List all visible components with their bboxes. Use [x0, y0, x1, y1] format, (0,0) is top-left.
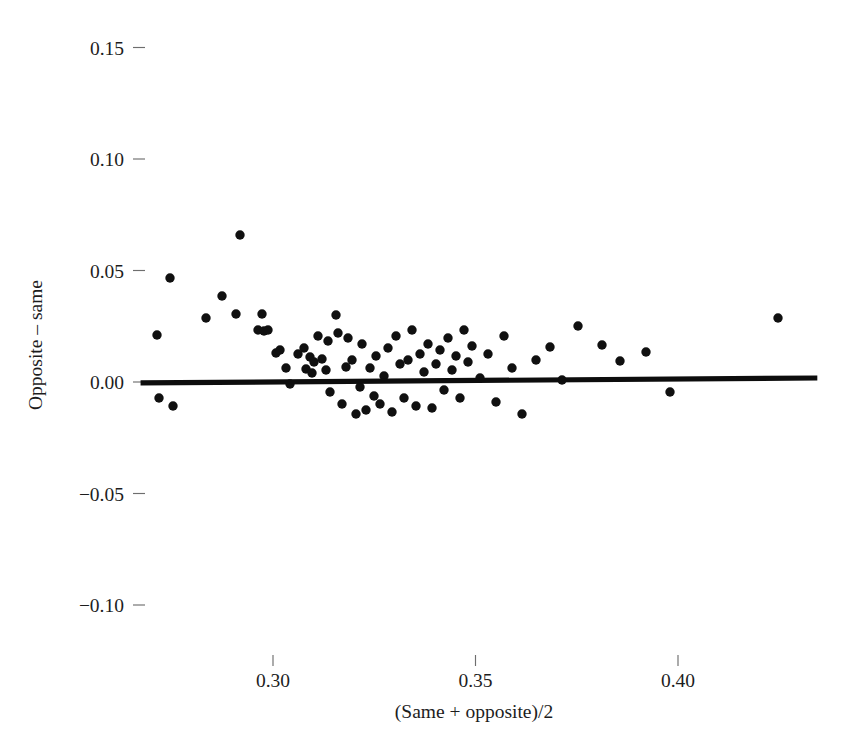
- data-point: [545, 342, 554, 351]
- data-point: [235, 230, 244, 239]
- data-point: [325, 387, 334, 396]
- data-point: [455, 393, 464, 402]
- data-point: [307, 368, 316, 377]
- y-tick-label: 0.10: [90, 149, 124, 170]
- data-point: [443, 333, 452, 342]
- data-point: [351, 409, 360, 418]
- data-point: [217, 291, 226, 300]
- data-point: [391, 331, 400, 340]
- data-point: [299, 343, 308, 352]
- data-point: [231, 309, 240, 318]
- data-point: [407, 325, 416, 334]
- data-point: [411, 401, 420, 410]
- data-point: [309, 357, 318, 366]
- data-point: [313, 331, 322, 340]
- scatter-plot-figure: −0.10−0.050.000.050.100.15 0.300.350.40 …: [0, 0, 864, 756]
- data-point: [375, 399, 384, 408]
- plot-canvas: −0.10−0.050.000.050.100.15 0.300.350.40 …: [0, 0, 864, 756]
- data-point: [323, 336, 332, 345]
- x-axis-title: (Same + opposite)/2: [395, 701, 553, 723]
- data-point: [615, 356, 624, 365]
- data-point: [387, 407, 396, 416]
- data-point: [431, 359, 440, 368]
- data-point: [597, 340, 606, 349]
- data-point: [152, 330, 161, 339]
- data-point: [331, 310, 340, 319]
- data-point: [483, 349, 492, 358]
- data-point: [467, 341, 476, 350]
- data-point: [427, 403, 436, 412]
- data-point: [419, 367, 428, 376]
- data-point: [773, 313, 782, 322]
- data-point: [531, 355, 540, 364]
- data-point: [369, 391, 378, 400]
- data-point: [499, 331, 508, 340]
- data-point: [573, 321, 582, 330]
- data-point: [165, 273, 174, 282]
- data-point: [361, 405, 370, 414]
- data-point: [321, 365, 330, 374]
- data-point: [517, 409, 526, 418]
- data-point: [343, 333, 352, 342]
- x-tick-label: 0.35: [458, 670, 492, 691]
- y-tick-label: 0.00: [90, 372, 124, 393]
- data-point: [507, 363, 516, 372]
- data-point: [459, 325, 468, 334]
- data-point: [665, 387, 674, 396]
- data-point: [423, 339, 432, 348]
- data-point: [263, 325, 272, 334]
- y-tick-label: 0.15: [90, 38, 124, 59]
- data-point: [337, 399, 346, 408]
- data-point: [403, 355, 412, 364]
- data-point: [317, 354, 326, 363]
- data-point: [154, 393, 163, 402]
- data-point: [463, 357, 472, 366]
- x-tick-label: 0.40: [661, 670, 695, 691]
- data-point: [451, 351, 460, 360]
- data-point: [383, 343, 392, 352]
- y-tick-label: −0.10: [79, 595, 124, 616]
- data-point: [168, 401, 177, 410]
- data-point: [281, 363, 290, 372]
- data-point: [641, 347, 650, 356]
- data-point: [435, 345, 444, 354]
- data-point: [333, 328, 342, 337]
- data-point: [371, 351, 380, 360]
- data-point: [439, 385, 448, 394]
- data-point: [275, 345, 284, 354]
- data-point: [201, 313, 210, 322]
- data-point: [257, 309, 266, 318]
- data-point: [395, 359, 404, 368]
- data-point: [415, 349, 424, 358]
- data-point: [399, 393, 408, 402]
- data-point: [365, 363, 374, 372]
- y-axis-title: Opposite – same: [25, 280, 46, 410]
- y-tick-label: 0.05: [90, 261, 124, 282]
- data-point: [357, 339, 366, 348]
- y-tick-label: −0.05: [79, 484, 124, 505]
- data-point: [447, 365, 456, 374]
- x-tick-label: 0.30: [256, 670, 290, 691]
- data-point: [347, 355, 356, 364]
- data-point: [491, 397, 500, 406]
